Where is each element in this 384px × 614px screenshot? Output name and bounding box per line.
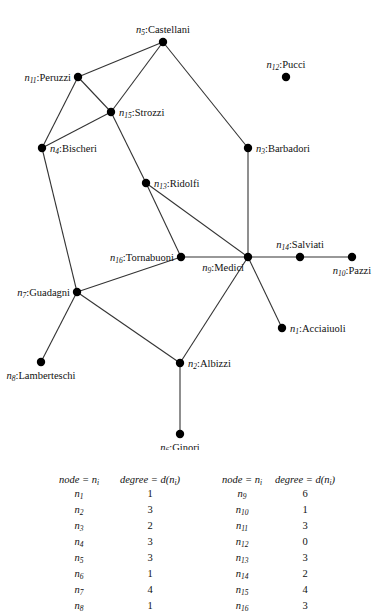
node-n3 [244,144,252,152]
edge-n13-n9 [146,183,248,257]
cell-degree: 1 [260,504,350,515]
edge-n9-n1 [248,257,282,328]
table-row: n23n101 [0,504,384,518]
cell-degree: 3 [260,520,350,531]
table-row: n32n113 [0,520,384,534]
nodes: n1:Acciaiuolin2:Albizzin3:Barbadorin4:Bi… [6,24,371,450]
cell-degree: 2 [105,520,195,531]
edge-n15-n13 [111,112,146,183]
node-label-n11: n11:Peruzzi [24,72,71,85]
edge-n4-n7 [42,148,77,292]
edge-n7-n8 [41,292,77,362]
header-degree: degree = d(ni) [95,474,205,487]
node-n14 [296,253,304,261]
node-label-n1: n1:Acciaiuoli [290,323,346,336]
edge-n7-n2 [77,292,180,363]
node-n11 [74,73,82,81]
node-n7 [73,288,81,296]
node-n5 [159,38,167,46]
header-degree-2: degree = d(ni) [250,474,360,487]
cell-degree: 1 [105,488,195,499]
node-n15 [107,108,115,116]
node-label-n3: n3:Barbadori [256,143,310,156]
table-row: n81n163 [0,600,384,614]
cell-degree: 4 [260,584,350,595]
cell-degree: 4 [105,584,195,595]
node-n8 [37,358,45,366]
cell-degree: 1 [105,568,195,579]
node-label-n15: n15:Strozzi [119,107,164,120]
node-label-n10: n10:Pazzi [333,265,371,278]
node-label-n7: n7:Guadagni [17,287,70,300]
node-label-n4: n4:Bischeri [50,143,97,156]
cell-degree: 0 [260,536,350,547]
edge-n11-n15 [78,77,111,112]
edge-n11-n4 [42,77,78,148]
table-row: n74n154 [0,584,384,598]
table-header: node = ni degree = d(ni) node = ni degre… [0,474,384,488]
node-label-n8: n8:Lamberteschi [6,370,75,383]
node-n13 [142,179,150,187]
table-row: n61n142 [0,568,384,582]
cell-degree: 3 [260,552,350,563]
cell-degree: 3 [260,600,350,611]
edge-n5-n3 [163,42,248,148]
node-label-n6: n6:Ginori [160,442,199,450]
cell-degree: 3 [105,552,195,563]
node-n16 [177,253,185,261]
table-row: n53n133 [0,552,384,566]
node-label-n12: n12:Pucci [267,59,306,72]
node-label-n2: n2:Albizzi [188,358,231,371]
node-n10 [348,253,356,261]
florentine-families-network: n1:Acciaiuolin2:Albizzin3:Barbadorin4:Bi… [0,0,384,450]
cell-degree: 3 [105,536,195,547]
cell-degree: 6 [260,488,350,499]
edges [41,42,352,434]
cell-degree: 1 [105,600,195,611]
cell-degree: 3 [105,504,195,515]
node-n2 [176,359,184,367]
node-n1 [278,324,286,332]
node-label-n14: n14:Salviati [276,239,324,252]
table-row: n43n120 [0,536,384,550]
node-label-n13: n13:Ridolfi [154,178,200,191]
node-label-n5: n5:Castellani [136,24,190,37]
node-n6 [176,430,184,438]
cell-degree: 2 [260,568,350,579]
node-n9 [244,253,252,261]
node-n12 [282,73,290,81]
node-n4 [38,144,46,152]
table-row: n11n96 [0,488,384,502]
edge-n13-n16 [146,183,181,257]
